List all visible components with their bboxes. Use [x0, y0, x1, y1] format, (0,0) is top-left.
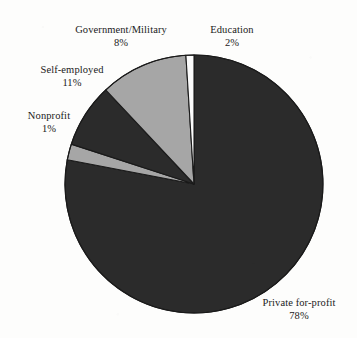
pie-slice-group [65, 55, 323, 313]
pie-label-government-military-name: Government/Military [58, 24, 184, 37]
pie-label-self-employed-percent: 11% [20, 77, 124, 90]
pie-label-government-military-percent: 8% [58, 37, 184, 50]
pie-label-nonprofit: Nonprofit 1% [6, 110, 92, 135]
pie-label-private-for-profit: Private for-profit 78% [243, 297, 355, 322]
pie-label-private-for-profit-percent: 78% [243, 310, 355, 323]
pie-label-nonprofit-name: Nonprofit [6, 110, 92, 123]
pie-label-education: Education 2% [193, 24, 271, 49]
pie-label-education-percent: 2% [193, 37, 271, 50]
pie-label-education-name: Education [193, 24, 271, 37]
pie-label-private-for-profit-name: Private for-profit [243, 297, 355, 310]
pie-chart: Government/Military 8% Education 2% Self… [0, 0, 357, 338]
pie-label-self-employed: Self-employed 11% [20, 64, 124, 89]
pie-label-government-military: Government/Military 8% [58, 24, 184, 49]
pie-label-nonprofit-percent: 1% [6, 123, 92, 136]
pie-label-self-employed-name: Self-employed [20, 64, 124, 77]
pie-chart-canvas [0, 0, 357, 338]
